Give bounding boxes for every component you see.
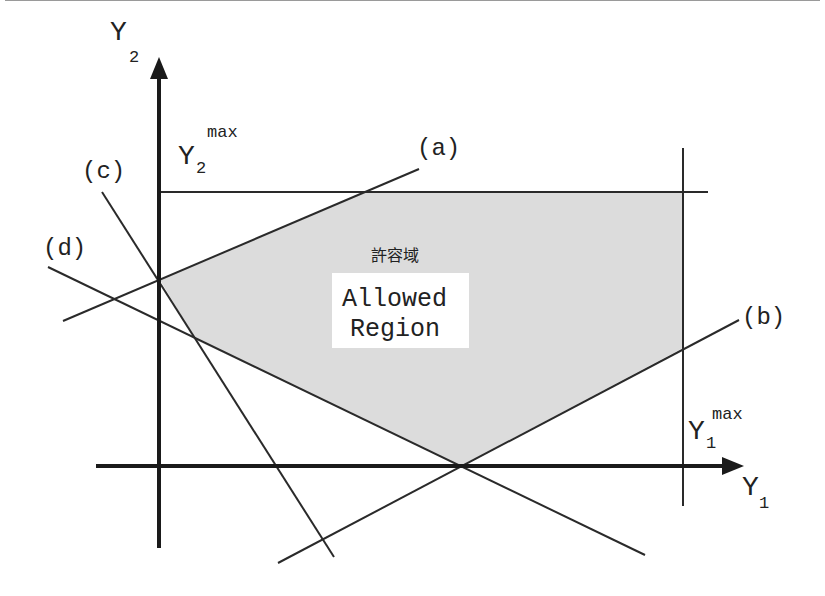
y1-axis-label: Y 1	[742, 472, 769, 513]
region-label-line2: Region	[350, 315, 440, 344]
constraint-label-b: (b)	[742, 304, 785, 331]
svg-text:Y: Y	[178, 141, 195, 172]
svg-text:1: 1	[759, 494, 769, 513]
y2-axis-arrowhead-icon	[150, 57, 168, 79]
y1-axis-arrowhead-icon	[722, 457, 744, 475]
svg-text:Y: Y	[110, 17, 127, 48]
svg-text:max: max	[712, 405, 743, 424]
region-label-line1: Allowed	[342, 285, 447, 314]
region-label-japanese: 許容域	[371, 246, 419, 265]
y2-axis-label: Y 2	[110, 17, 139, 67]
svg-text:Y: Y	[688, 416, 705, 447]
svg-text:2: 2	[196, 159, 206, 178]
svg-text:1: 1	[706, 434, 716, 453]
allowed-region-diagram: Y 2 Y 1 Y 2 max Y 1 max (a) (b) (c) (d) …	[0, 0, 825, 596]
constraint-label-a: (a)	[417, 135, 460, 162]
y1-max-label: Y 1 max	[688, 405, 743, 453]
y2-max-label: Y 2 max	[178, 123, 238, 178]
svg-text:max: max	[207, 123, 238, 142]
constraint-label-d: (d)	[43, 235, 86, 262]
svg-text:Y: Y	[742, 472, 759, 503]
svg-text:2: 2	[129, 48, 139, 67]
constraint-label-c: (c)	[82, 158, 125, 185]
